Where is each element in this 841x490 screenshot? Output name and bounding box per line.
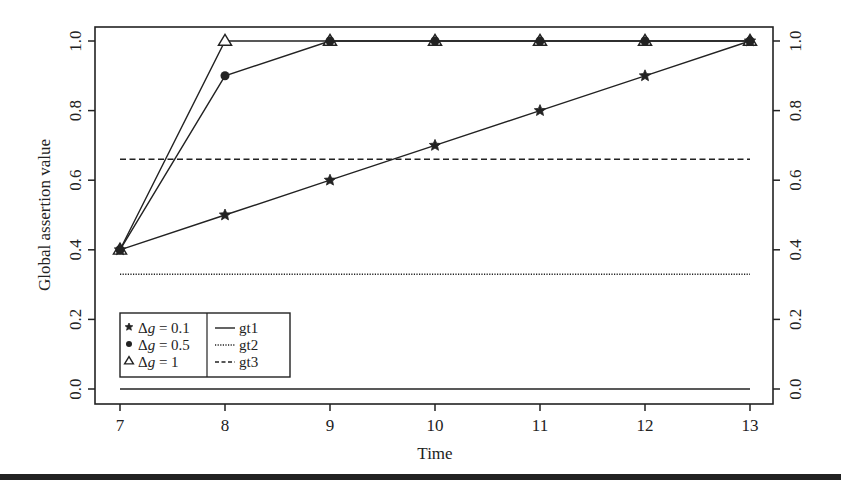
y-tick-label-right: 0.0 bbox=[786, 378, 805, 399]
x-tick-label: 13 bbox=[742, 416, 759, 435]
y-tick-label: 1.0 bbox=[66, 30, 85, 51]
page-bottom-rule bbox=[0, 474, 841, 480]
x-tick-label: 12 bbox=[637, 416, 654, 435]
y-tick-label-right: 0.8 bbox=[786, 100, 805, 121]
circle-marker-icon bbox=[221, 71, 230, 80]
legend: Δg = 0.1Δg = 0.5Δg = 1gt1gt2gt3 bbox=[120, 313, 290, 377]
x-tick-label: 7 bbox=[116, 416, 125, 435]
y-tick-label: 0.8 bbox=[66, 100, 85, 121]
y-tick-label: 0.0 bbox=[66, 378, 85, 399]
legend-label: Δg = 1 bbox=[138, 354, 179, 370]
y-tick-label-right: 1.0 bbox=[786, 30, 805, 51]
x-axis: 78910111213 bbox=[116, 404, 759, 435]
y-tick-label-right: 0.4 bbox=[786, 239, 805, 261]
circle-marker-icon bbox=[326, 37, 335, 46]
x-tick-label: 9 bbox=[326, 416, 335, 435]
y-tick-label: 0.6 bbox=[66, 170, 85, 191]
star-marker-icon bbox=[429, 139, 440, 150]
circle-marker-icon bbox=[126, 341, 132, 347]
legend-label: Δg = 0.5 bbox=[138, 337, 190, 353]
y-axis-label: Global assertion value bbox=[35, 139, 54, 291]
x-tick-label: 8 bbox=[221, 416, 230, 435]
y-axis-right: 0.00.20.40.60.81.0 bbox=[773, 30, 805, 399]
markers-star bbox=[114, 35, 755, 255]
x-tick-label: 11 bbox=[532, 416, 548, 435]
circle-marker-icon bbox=[431, 37, 440, 46]
circle-marker-icon bbox=[536, 37, 545, 46]
circle-marker-icon bbox=[641, 37, 650, 46]
star-marker-icon bbox=[324, 174, 335, 185]
triangle-marker-icon bbox=[218, 34, 231, 45]
legend-label: gt3 bbox=[239, 354, 258, 370]
star-marker-icon bbox=[534, 105, 545, 116]
legend-label: Δg = 0.1 bbox=[138, 320, 190, 336]
line-chart: 0.00.20.40.60.81.0 0.00.20.40.60.81.0 78… bbox=[0, 0, 841, 490]
star-marker-icon bbox=[219, 209, 230, 220]
x-tick-label: 10 bbox=[427, 416, 444, 435]
y-tick-label: 0.4 bbox=[66, 239, 85, 261]
star-marker-icon bbox=[639, 70, 650, 81]
y-tick-label-right: 0.6 bbox=[786, 170, 805, 191]
y-tick-label: 0.2 bbox=[66, 309, 85, 330]
legend-label: gt1 bbox=[239, 320, 258, 336]
x-axis-label: Time bbox=[417, 444, 452, 463]
y-tick-label-right: 0.2 bbox=[786, 309, 805, 330]
y-axis-left: 0.00.20.40.60.81.0 bbox=[66, 30, 95, 399]
legend-label: gt2 bbox=[239, 337, 258, 353]
